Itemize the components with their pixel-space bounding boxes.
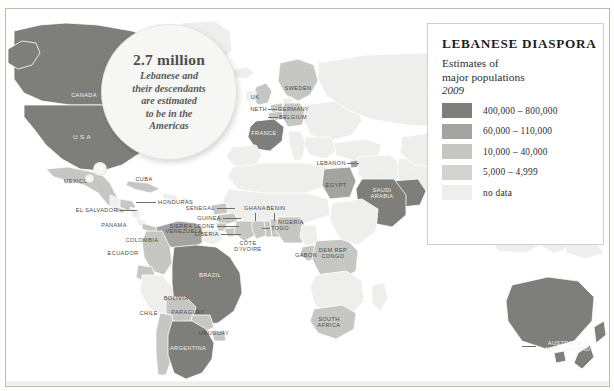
legend-entry-no-data: no data [442, 185, 603, 200]
legend-label-no-data: no data [483, 188, 512, 198]
callout-line-2: their descendants [132, 83, 205, 95]
map-infographic: CANADA U S A MEXICO CUBA HONDURAS EL SAL… [0, 0, 614, 391]
leader-line-benin [274, 213, 275, 221]
leader-line-lebanon [347, 163, 359, 164]
leader-line-senegal [217, 208, 235, 209]
country-senegal [212, 203, 228, 215]
country-egypt [322, 167, 356, 199]
legend-label-5k-4999: 5,000 – 4,999 [483, 167, 538, 177]
callout-body: Lebanese and their descendants are estim… [132, 70, 205, 132]
leader-line-sierra-leone [217, 226, 239, 227]
legend-swatch-60k-110k [442, 124, 472, 139]
callout-headline: 2.7 million [133, 51, 205, 69]
country-south-africa [310, 305, 356, 339]
country-tasmania [554, 351, 566, 363]
legend-swatch-10k-40k [442, 144, 472, 159]
legend-swatch-400k-800k [442, 103, 472, 118]
country-australia [506, 277, 594, 349]
leader-line-liberia [221, 234, 241, 235]
legend-swatch-5k-4999 [442, 165, 472, 180]
legend-entry-400k-800k: 400,000 – 800,000 [442, 103, 603, 118]
country-nicaragua [130, 207, 140, 219]
island-puerto-rico [182, 197, 190, 203]
legend-label-400k-800k: 400,000 – 800,000 [483, 106, 558, 116]
legend-year: 2009 [442, 84, 603, 96]
country-spain-portugal [226, 145, 262, 167]
callout-line-3: are estimated [132, 95, 205, 107]
callout-line-1: Lebanese and [132, 70, 205, 82]
map-frame: CANADA U S A MEXICO CUBA HONDURAS EL SAL… [5, 8, 610, 387]
country-uruguay [212, 331, 226, 341]
callout-tail-large [94, 163, 106, 175]
legend-label-10k-40k: 10,000 – 40,000 [483, 147, 548, 157]
country-new-zealand [594, 321, 606, 343]
country-italy [288, 131, 306, 161]
island-hispaniola [162, 193, 178, 201]
legend-title: LEBANESE DIASPORA [442, 36, 603, 52]
legend-entry-60k-110k: 60,000 – 110,000 [442, 124, 603, 139]
country-cuba [126, 181, 160, 193]
leader-line-togo [262, 228, 270, 229]
leader-line-australia [522, 346, 536, 347]
country-germany [282, 103, 306, 127]
legend-panel: LEBANESE DIASPORA Estimates of major pop… [427, 23, 604, 245]
callout-bubble: 2.7 million Lebanese and their descendan… [102, 25, 236, 159]
callout-line-4: to be in the [132, 108, 205, 120]
leader-line-honduras [136, 202, 156, 203]
island-madagascar [372, 283, 388, 311]
country-new-zealand-south [574, 345, 594, 369]
legend-subtitle-line2: major populations [442, 71, 603, 85]
leader-line-guinea [223, 218, 241, 219]
country-iceland [234, 67, 254, 79]
legend-entry-5k-4999: 5,000 – 4,999 [442, 165, 603, 180]
antarctica-sliver [6, 381, 609, 386]
legend-swatch-no-data [442, 185, 472, 200]
leader-line-belgium [268, 117, 278, 118]
country-norway-sweden-finland [278, 59, 318, 101]
legend-label-60k-110k: 60,000 – 110,000 [483, 126, 552, 136]
legend-subtitle-line1: Estimates of [442, 57, 603, 71]
callout-tail-small [86, 175, 93, 182]
country-east-africa [330, 199, 378, 245]
callout-line-5: Americas [132, 120, 205, 132]
leader-line-netherlands [268, 109, 277, 110]
leader-line-ghana [255, 213, 256, 221]
legend-entry-10k-40k: 10,000 – 40,000 [442, 144, 603, 159]
leader-line-el-salvador [120, 210, 137, 211]
country-ireland [246, 91, 256, 101]
